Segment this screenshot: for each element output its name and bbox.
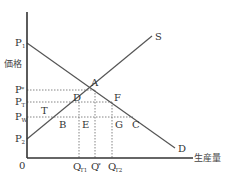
point-g-label: G xyxy=(115,119,123,130)
price-label-p2: P 2 xyxy=(15,133,25,145)
quantity-label-qt2: Q T2 xyxy=(108,161,122,173)
supply-label: S xyxy=(155,31,162,42)
svg-text:*: * xyxy=(22,86,25,92)
point-b-label: B xyxy=(59,119,66,130)
point-e-label: E xyxy=(82,119,89,130)
price-label-pstar: P * xyxy=(15,84,25,95)
y-axis-label: 価格 xyxy=(4,58,22,69)
svg-text:1: 1 xyxy=(22,43,26,49)
svg-text:T2: T2 xyxy=(115,167,122,173)
point-f-label: F xyxy=(114,92,121,103)
point-a-label: A xyxy=(90,77,99,88)
svg-text:T: T xyxy=(22,102,26,108)
supply-demand-diagram: S D 価格 生産量 0 P 1 P * P T P W P 2 Q T1 Q … xyxy=(0,0,227,177)
price-label-pt: P T xyxy=(15,96,26,108)
x-axis-label: 生産量 xyxy=(194,152,221,163)
region-t-label: T xyxy=(41,105,48,116)
svg-text:*: * xyxy=(98,162,101,168)
quantity-label-qstar: Q * xyxy=(91,161,101,172)
svg-text:W: W xyxy=(22,117,28,123)
point-c-label: C xyxy=(132,119,140,130)
price-label-p1: P 1 xyxy=(15,37,26,49)
demand-label: D xyxy=(178,143,186,154)
svg-text:2: 2 xyxy=(22,139,26,145)
origin-label: 0 xyxy=(19,160,25,171)
quantity-label-qt1: Q T1 xyxy=(73,161,87,173)
demand-curve xyxy=(27,43,175,148)
point-d-label: D xyxy=(73,92,81,103)
svg-text:P: P xyxy=(15,37,22,48)
price-label-pw: P W xyxy=(15,111,28,123)
svg-text:T1: T1 xyxy=(80,167,87,173)
